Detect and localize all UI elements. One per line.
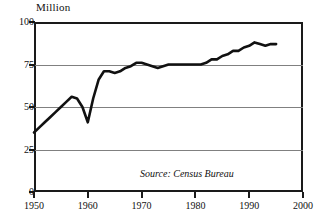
x-tick-label-1980: 1980 <box>185 200 205 211</box>
x-tick-label-2000: 2000 <box>293 200 313 211</box>
x-tick-label-1970: 1970 <box>132 200 152 211</box>
x-tick-label-1990: 1990 <box>239 200 259 211</box>
x-tick-mark-1950 <box>33 192 35 198</box>
source-annotation: Source: Census Bureau <box>140 168 234 179</box>
x-axis: 195019601970198019902000 <box>0 0 314 223</box>
x-tick-mark-2000 <box>302 192 304 198</box>
x-tick-label-1960: 1960 <box>78 200 98 211</box>
chart-container: Million 0255075100 195019601970198019902… <box>0 0 314 223</box>
x-tick-mark-1980 <box>194 192 196 198</box>
x-tick-mark-1960 <box>87 192 89 198</box>
x-tick-mark-1990 <box>248 192 250 198</box>
x-tick-label-1950: 1950 <box>24 200 44 211</box>
x-tick-mark-1970 <box>141 192 143 198</box>
